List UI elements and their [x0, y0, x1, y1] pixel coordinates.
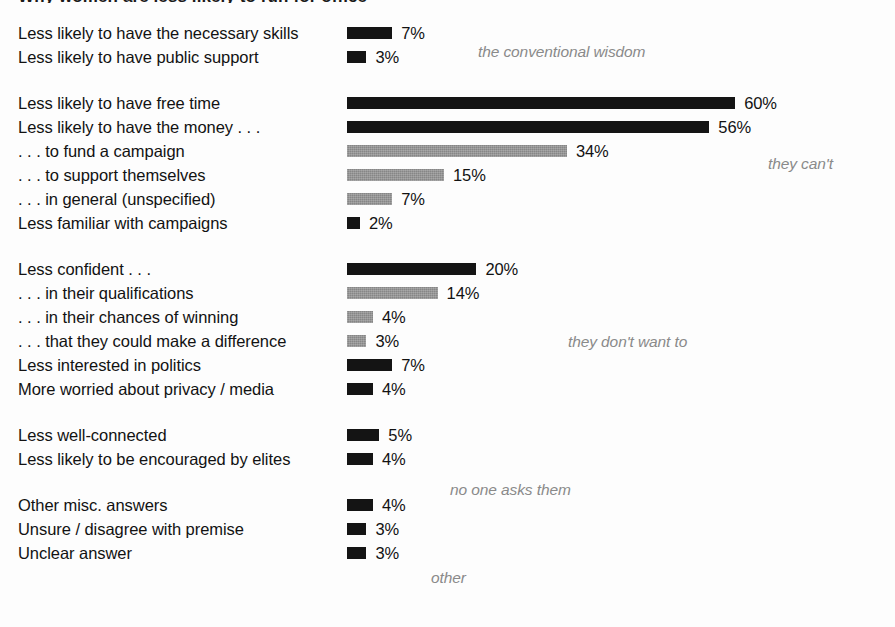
bar-gray — [347, 145, 567, 157]
bar-row-label: Less likely to have free time — [18, 95, 220, 112]
bar-track: 4% — [347, 311, 406, 323]
bar-gray — [347, 335, 366, 347]
bar-value-label: 3% — [375, 521, 399, 538]
bar-gray — [347, 193, 392, 205]
bar-row[interactable]: Less likely to have free time60% — [0, 91, 895, 115]
bar-group-no-one-asks-them: Less well-connected5%Less likely to be e… — [0, 423, 895, 471]
bar-row-label: . . . to support themselves — [18, 167, 206, 184]
bar-gray — [347, 169, 444, 181]
bar-row[interactable]: Less familiar with campaigns2% — [0, 211, 895, 235]
bar-value-label: 56% — [718, 119, 751, 136]
bar-dark — [347, 97, 735, 109]
bar-value-label: 3% — [375, 49, 399, 66]
bar-row-label: Less well-connected — [18, 427, 167, 444]
bar-row-label: Unsure / disagree with premise — [18, 521, 244, 538]
bar-value-label: 34% — [576, 143, 609, 160]
bar-dark — [347, 51, 366, 63]
bar-row[interactable]: Unclear answer3% — [0, 541, 895, 565]
bar-dark — [347, 429, 379, 441]
bar-dark — [347, 383, 373, 395]
bar-row[interactable]: More worried about privacy / media4% — [0, 377, 895, 401]
bar-dark — [347, 453, 373, 465]
bar-row[interactable]: . . . that they could make a difference3… — [0, 329, 895, 353]
bar-row-label: Less likely to have the money . . . — [18, 119, 260, 136]
bar-value-label: 14% — [447, 285, 480, 302]
bar-row[interactable]: Less likely to be encouraged by elites4% — [0, 447, 895, 471]
bar-track: 7% — [347, 27, 425, 39]
bar-group-they-cant: Less likely to have free time60%Less lik… — [0, 91, 895, 235]
bar-value-label: 4% — [382, 497, 406, 514]
bar-value-label: 7% — [401, 357, 425, 374]
bar-row-label: Less likely to have the necessary skills — [18, 25, 298, 42]
bar-row[interactable]: Less likely to have the necessary skills… — [0, 21, 895, 45]
bar-group-separator — [0, 401, 895, 423]
bar-track: 3% — [347, 335, 399, 347]
bar-value-label: 5% — [388, 427, 412, 444]
bar-row[interactable]: . . . in their chances of winning4% — [0, 305, 895, 329]
bar-value-label: 60% — [744, 95, 777, 112]
bar-value-label: 15% — [453, 167, 486, 184]
bar-dark — [347, 523, 366, 535]
bar-value-label: 3% — [375, 545, 399, 562]
bar-row[interactable]: Less likely to have the money . . .56% — [0, 115, 895, 139]
bar-track: 15% — [347, 169, 486, 181]
cluster-annotation-other: other — [431, 569, 466, 587]
chart-top-spacer — [0, 0, 895, 21]
bar-value-label: 20% — [485, 261, 518, 278]
bar-row[interactable]: Less confident . . .20% — [0, 257, 895, 281]
cluster-annotation-no-one-asks-them: no one asks them — [450, 481, 571, 499]
bar-value-label: 7% — [401, 191, 425, 208]
bar-track: 3% — [347, 51, 399, 63]
bar-row[interactable]: . . . in their qualifications14% — [0, 281, 895, 305]
bar-row-label: Less likely to be encouraged by elites — [18, 451, 290, 468]
bar-value-label: 4% — [382, 309, 406, 326]
bar-group-conventional-wisdom: Less likely to have the necessary skills… — [0, 21, 895, 69]
bar-track: 14% — [347, 287, 479, 299]
bar-row[interactable]: Less interested in politics7% — [0, 353, 895, 377]
bar-row[interactable]: Other misc. answers4% — [0, 493, 895, 517]
bar-value-label: 4% — [382, 451, 406, 468]
bar-dark — [347, 547, 366, 559]
bar-track: 7% — [347, 359, 425, 371]
bar-gray — [347, 311, 373, 323]
bar-row-label: . . . in general (unspecified) — [18, 191, 216, 208]
bar-row-label: . . . that they could make a difference — [18, 333, 286, 350]
bar-dark — [347, 359, 392, 371]
bar-track: 3% — [347, 523, 399, 535]
bar-row-label: Less likely to have public support — [18, 49, 258, 66]
bar-row-label: Less interested in politics — [18, 357, 201, 374]
bar-track: 7% — [347, 193, 425, 205]
bar-row-label: . . . to fund a campaign — [18, 143, 185, 160]
bar-row[interactable]: . . . to support themselves15% — [0, 163, 895, 187]
bar-track: 4% — [347, 499, 406, 511]
bar-dark — [347, 499, 373, 511]
bar-value-label: 7% — [401, 25, 425, 42]
bar-row-label: More worried about privacy / media — [18, 381, 274, 398]
bar-dark — [347, 217, 360, 229]
bar-row[interactable]: Less well-connected5% — [0, 423, 895, 447]
bar-row-label: Less confident . . . — [18, 261, 151, 278]
bar-row[interactable]: Unsure / disagree with premise3% — [0, 517, 895, 541]
cluster-annotation-they-dont-want-to: they don't want to — [568, 333, 687, 351]
bar-row[interactable]: . . . in general (unspecified)7% — [0, 187, 895, 211]
bar-group-separator — [0, 69, 895, 91]
bar-group-other: Other misc. answers4%Unsure / disagree w… — [0, 493, 895, 565]
bar-group-separator — [0, 235, 895, 257]
bar-group-list: Less likely to have the necessary skills… — [0, 0, 895, 565]
bar-group-separator — [0, 471, 895, 493]
bar-row[interactable]: . . . to fund a campaign34% — [0, 139, 895, 163]
bar-value-label: 3% — [375, 333, 399, 350]
bar-row-label: Other misc. answers — [18, 497, 167, 514]
bar-track: 2% — [347, 217, 393, 229]
bar-track: 60% — [347, 97, 777, 109]
bar-row[interactable]: Less likely to have public support3% — [0, 45, 895, 69]
bar-value-label: 2% — [369, 215, 393, 232]
bar-chart-figure: Why women are less likely to run for off… — [0, 0, 895, 627]
bar-track: 5% — [347, 429, 412, 441]
bar-dark — [347, 121, 709, 133]
cluster-annotation-conventional-wisdom: the conventional wisdom — [478, 43, 645, 61]
bar-row-label: . . . in their qualifications — [18, 285, 194, 302]
bar-gray — [347, 287, 438, 299]
bar-dark — [347, 263, 476, 275]
bar-value-label: 4% — [382, 381, 406, 398]
